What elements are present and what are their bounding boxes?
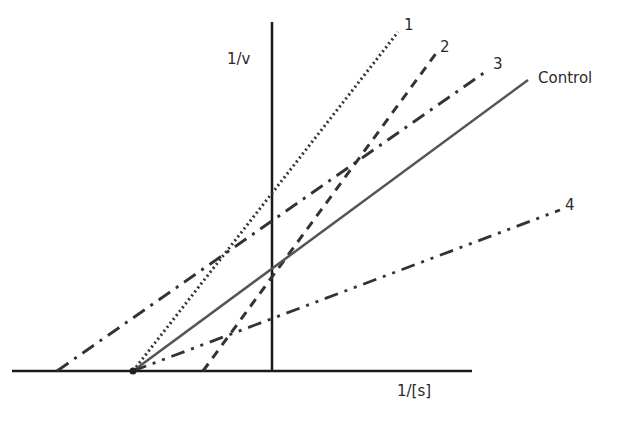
line-2-label: 2: [440, 40, 450, 55]
line-4-label: 4: [565, 198, 575, 213]
y-axis-label: 1/v: [227, 52, 250, 67]
control-label: Control: [538, 71, 592, 86]
line-control-solid: [133, 80, 528, 371]
line-1-label: 1: [404, 18, 414, 33]
x-axis-label: 1/[s]: [397, 384, 431, 399]
line-2-dashed: [203, 52, 437, 371]
intersection-point: [130, 368, 137, 375]
line-1-dotted: [133, 32, 398, 371]
line-4-dash-dot-dot: [133, 210, 560, 371]
line-3-label: 3: [493, 57, 503, 72]
lineweaver-burk-plot: [0, 0, 630, 427]
